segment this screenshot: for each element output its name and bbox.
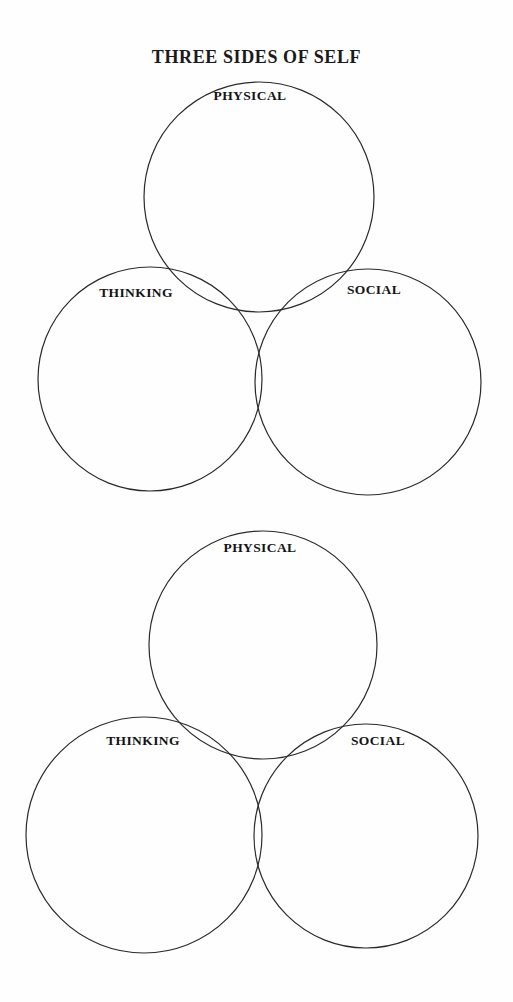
label-physical-top: PHYSICAL (214, 89, 287, 103)
label-thinking-bottom: THINKING (106, 734, 180, 748)
label-thinking-top: THINKING (99, 286, 173, 300)
circle-social-bottom (254, 724, 478, 948)
venn-diagram-bottom: PHYSICAL THINKING SOCIAL (0, 515, 513, 1002)
label-physical-bottom: PHYSICAL (224, 541, 297, 555)
circle-physical-bottom (149, 531, 377, 759)
venn-diagram-top: PHYSICAL THINKING SOCIAL (0, 0, 513, 510)
label-social-top: SOCIAL (347, 283, 401, 297)
label-social-bottom: SOCIAL (351, 734, 405, 748)
venn-circles-bottom (0, 515, 513, 1002)
circle-thinking-top (38, 267, 262, 491)
circle-physical-top (144, 82, 374, 312)
venn-circles-top (0, 0, 513, 510)
circle-social-top (255, 269, 481, 495)
worksheet-page: THREE SIDES OF SELF PHYSICAL THINKING SO… (0, 0, 513, 1002)
circle-thinking-bottom (26, 717, 262, 953)
